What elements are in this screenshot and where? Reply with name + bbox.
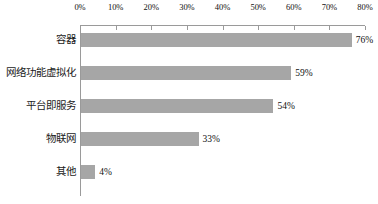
x-tick-label: 30% — [171, 2, 203, 13]
bar-row: 平台即服务54% — [0, 99, 378, 113]
bar-value-label: 54% — [277, 97, 294, 115]
bar-value-label: 59% — [295, 64, 312, 82]
bar-value-label: 33% — [203, 130, 220, 148]
bar[interactable] — [81, 165, 95, 179]
bar-value-label: 4% — [99, 163, 112, 181]
bar-row: 网络功能虚拟化59% — [0, 66, 378, 80]
bar[interactable] — [81, 132, 199, 146]
bar-row: 其他4% — [0, 165, 378, 179]
category-label: 物联网 — [46, 130, 76, 148]
x-tick-label: 0% — [64, 2, 96, 13]
x-tick-label: 40% — [207, 2, 239, 13]
category-label: 其他 — [56, 163, 76, 181]
bar-chart: 0%10%20%30%40%50%60%70%80% 容器76%网络功能虚拟化5… — [0, 0, 378, 204]
x-tick-label: 80% — [349, 2, 378, 13]
bar[interactable] — [81, 66, 291, 80]
x-tick-label: 70% — [313, 2, 345, 13]
bar-row: 物联网33% — [0, 132, 378, 146]
x-tick-label: 50% — [242, 2, 274, 13]
bar[interactable] — [81, 99, 273, 113]
bar-row: 容器76% — [0, 33, 378, 47]
x-tick-label: 60% — [278, 2, 310, 13]
plot-area: 容器76%网络功能虚拟化59%平台即服务54%物联网33%其他4% — [0, 26, 378, 204]
bar[interactable] — [81, 33, 352, 47]
category-label: 容器 — [56, 31, 76, 49]
x-tick-label: 10% — [100, 2, 132, 13]
bar-value-label: 76% — [356, 31, 373, 49]
x-tick-label: 20% — [135, 2, 167, 13]
category-label: 平台即服务 — [26, 97, 76, 115]
category-label: 网络功能虚拟化 — [6, 64, 76, 82]
